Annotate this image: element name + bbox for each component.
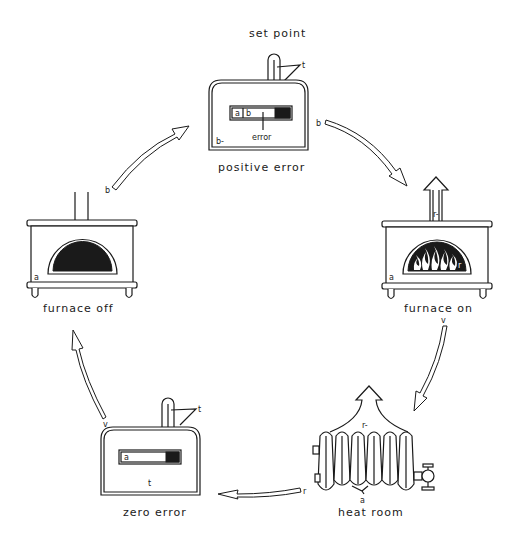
scale-a-label: a xyxy=(235,109,240,118)
arrow-r-label: r xyxy=(303,487,307,496)
scale-a-label: a xyxy=(124,453,129,462)
furnace-off-label: furnace off xyxy=(43,302,114,315)
t-bottom-label: t xyxy=(148,479,151,488)
furnace-on-label: furnace on xyxy=(404,302,473,315)
scale-b-label: b xyxy=(246,109,251,118)
heat-room-label: heat room xyxy=(338,506,404,519)
error-label: error xyxy=(252,133,272,142)
furnace-on: r- r a furnace on xyxy=(382,177,492,315)
arrow-b-label: b xyxy=(316,119,321,128)
arrow-positive-to-on: b xyxy=(316,119,407,186)
furnace-top xyxy=(382,221,492,227)
thermostat-positive-error: set point t a b error b- positive error xyxy=(209,27,308,174)
furnace-off-a-label: a xyxy=(34,273,39,282)
arrow-v-label: v xyxy=(441,316,446,325)
radiator-a-label: a xyxy=(360,496,365,505)
t-marker: t xyxy=(302,61,305,70)
chimney-r-label: r- xyxy=(433,210,439,219)
valve-left xyxy=(313,446,319,454)
furnace-on-a-label: a xyxy=(389,273,394,282)
radiator-r-label: r- xyxy=(362,421,368,430)
t-pointer-icon xyxy=(171,409,196,425)
furnace-top xyxy=(27,220,137,226)
furnace-off: a furnace off xyxy=(27,192,137,315)
scale-fill xyxy=(275,108,290,118)
heat-rising-arrow-icon xyxy=(330,386,408,432)
arrow-v-label: v xyxy=(103,420,108,429)
scale-fill xyxy=(166,452,179,462)
valve-icon xyxy=(414,464,434,490)
b-minus-label: b- xyxy=(216,137,224,146)
zero-error-label: zero error xyxy=(123,506,187,519)
arrow-off-to-positive: b xyxy=(105,126,189,195)
positive-error-label: positive error xyxy=(218,161,305,174)
arrow-zero-to-off: v xyxy=(72,330,108,429)
arrow-on-to-heat: v xyxy=(414,316,447,411)
set-point-label: set point xyxy=(249,27,306,40)
thermostat-zero-error: t a t zero error xyxy=(101,398,201,519)
radiator-fins xyxy=(318,432,414,490)
arrow-b-label: b xyxy=(105,186,110,195)
t-marker: t xyxy=(198,405,201,414)
arrow-heat-to-zero: r xyxy=(218,487,307,499)
feedback-cycle-diagram: set point t a b error b- positive error … xyxy=(0,0,517,545)
